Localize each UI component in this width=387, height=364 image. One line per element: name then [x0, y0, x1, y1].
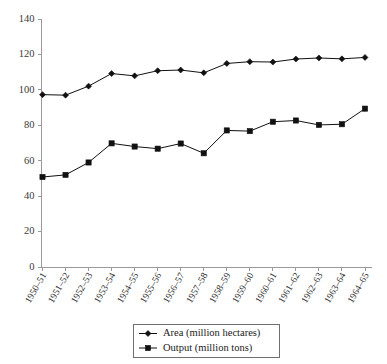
y-tick-label: 140 — [19, 13, 35, 24]
x-tick-label: 1953–54 — [92, 271, 117, 305]
data-point-marker — [247, 129, 252, 134]
data-point-marker — [178, 141, 183, 146]
legend-marker-square-icon — [145, 345, 150, 350]
x-tick-label: 1956–57 — [161, 271, 186, 305]
y-tick-label: 40 — [24, 190, 35, 201]
x-tick-label: 1952–53 — [69, 271, 94, 305]
data-point-marker — [40, 92, 46, 98]
data-point-marker — [178, 67, 184, 73]
series-polyline — [43, 109, 366, 177]
data-point-marker — [362, 54, 368, 60]
data-point-marker — [293, 56, 299, 62]
y-tick-label: 100 — [19, 84, 35, 95]
x-axis — [42, 267, 373, 271]
data-point-marker — [316, 55, 322, 61]
x-tick-label: 1955–56 — [138, 271, 163, 305]
data-point-marker — [270, 59, 276, 65]
y-tick-label: 0 — [29, 261, 34, 272]
x-tick-label: 1957–58 — [184, 271, 209, 305]
data-point-marker — [109, 141, 114, 146]
x-tick-label: 1963–64 — [322, 271, 347, 305]
data-point-marker — [86, 160, 91, 165]
data-point-marker — [293, 118, 298, 123]
data-point-marker — [63, 92, 69, 98]
x-tick-label: 1960–61 — [253, 271, 278, 305]
data-point-marker — [316, 122, 321, 127]
data-point-marker — [109, 71, 115, 77]
x-tick-label: 1964–65 — [345, 271, 370, 305]
series-polyline — [43, 57, 366, 95]
x-tick-label: 1954–55 — [115, 271, 140, 305]
x-tick-label: 1958–59 — [207, 271, 232, 305]
data-point-marker — [155, 146, 160, 151]
line-chart: 020406080100120140 1950–511951–521952–53… — [0, 0, 387, 364]
data-point-marker — [339, 56, 345, 62]
data-point-marker — [339, 122, 344, 127]
x-tick-label: 1950–51 — [23, 271, 48, 305]
data-point-marker — [224, 60, 230, 66]
data-point-marker — [201, 70, 207, 76]
y-tick-label: 60 — [24, 155, 35, 166]
data-point-marker — [132, 73, 138, 79]
data-point-marker — [270, 119, 275, 124]
y-tick-group: 020406080100120140 — [19, 13, 42, 272]
data-point-marker — [40, 174, 45, 179]
x-tick-label: 1951–52 — [46, 271, 71, 305]
data-point-marker — [155, 68, 161, 74]
x-tick-labels: 1950–511951–521952–531953–541954–551955–… — [23, 271, 371, 305]
data-point-marker — [63, 172, 68, 177]
x-tick-label: 1962–63 — [299, 271, 324, 305]
series-group — [40, 54, 369, 179]
data-point-marker — [362, 106, 367, 111]
series-output — [40, 106, 368, 180]
data-point-marker — [132, 144, 137, 149]
x-tick-label: 1961–62 — [276, 271, 301, 305]
legend-label: Output (million tons) — [163, 342, 253, 354]
x-tick-label: 1959–60 — [230, 271, 255, 305]
y-tick-label: 20 — [24, 225, 35, 236]
chart-figure: 020406080100120140 1950–511951–521952–53… — [0, 0, 387, 364]
legend-label: Area (million hectares) — [163, 327, 261, 339]
y-axis: 020406080100120140 — [19, 13, 42, 272]
data-point-marker — [224, 128, 229, 133]
y-tick-label: 80 — [24, 119, 35, 130]
data-point-marker — [86, 83, 92, 89]
data-point-marker — [247, 59, 253, 65]
y-tick-label: 120 — [19, 48, 35, 59]
data-point-marker — [201, 151, 206, 156]
series-area — [40, 54, 369, 98]
chart-legend: Area (million hectares)Output (million t… — [133, 324, 279, 357]
